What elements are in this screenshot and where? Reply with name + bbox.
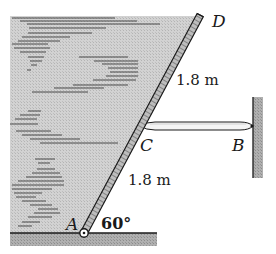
label-d: D (211, 11, 226, 31)
label-b: B (231, 135, 245, 155)
label-angle: 60° (101, 214, 131, 233)
label-a: A (64, 214, 78, 234)
strut-cb (140, 122, 254, 130)
label-upper-length: 1.8 m (176, 71, 219, 89)
pin-a (80, 229, 88, 237)
wall-b (253, 97, 263, 178)
statics-diagram: D 1.8 m C B 1.8 m A 60° (0, 0, 276, 254)
label-lower-length: 1.8 m (128, 171, 171, 189)
label-c: C (140, 135, 153, 155)
